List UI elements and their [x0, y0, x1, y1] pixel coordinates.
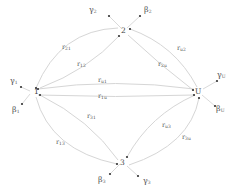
- edge-label-r1u: r1u: [98, 93, 107, 101]
- edge-1-to-u: [38, 95, 194, 97]
- edge-label-ru1: ru1: [98, 77, 107, 85]
- edge-label-r3u: r3u: [182, 134, 191, 142]
- edge-3-to-u: [129, 98, 199, 165]
- node-u-label: U: [195, 88, 201, 96]
- edge-label-r21: r21: [62, 44, 71, 52]
- edge-u-to-1: [38, 84, 194, 90]
- edge-u-to-2: [130, 29, 197, 87]
- spoke-beta-u: [202, 95, 215, 106]
- spoke-beta-2: [127, 16, 140, 28]
- node-3-label: 3: [120, 159, 125, 167]
- edge-u-to-3: [127, 95, 195, 157]
- edge-label-r2u: r2u: [158, 61, 167, 69]
- gamma-2-label: γ2: [89, 6, 97, 15]
- spoke-gamma-u: [203, 81, 217, 89]
- beta-3-label: β3: [98, 176, 106, 185]
- edge-label-r13: r13: [56, 139, 65, 147]
- gamma-u-label: γU: [217, 71, 226, 80]
- spoke-gamma-3: [127, 166, 138, 176]
- beta-2-label: β2: [144, 6, 152, 15]
- beta-1-label: β1: [12, 106, 20, 115]
- gamma-3-label: γ3: [143, 177, 151, 186]
- spoke-gamma-2: [109, 16, 121, 28]
- spoke-beta-3: [110, 164, 120, 174]
- spoke-gamma-1: [21, 87, 30, 91]
- edge-label-r31: r31: [87, 113, 96, 121]
- node-2-label: 2: [121, 27, 126, 35]
- gamma-1-label: γ1: [10, 77, 18, 86]
- state-graph: [0, 0, 234, 192]
- edge-label-ru2: ru2: [177, 45, 186, 53]
- edge-label-r12: r12: [77, 61, 86, 69]
- edge-1-to-3: [36, 97, 117, 164]
- edge-label-ru3: ru3: [162, 122, 171, 130]
- spoke-beta-1: [22, 94, 30, 104]
- beta-u-label: βU: [216, 105, 224, 114]
- node-1-label: 1: [34, 88, 39, 96]
